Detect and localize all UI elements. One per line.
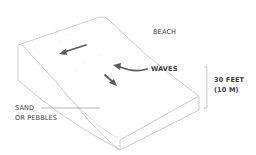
arrow-down-right-icon: [105, 75, 117, 86]
curved-wave-arrow-icon: [113, 63, 147, 71]
arrow-left-icon: [59, 45, 86, 55]
surface-texture: [60, 35, 119, 73]
label-or-pebbles: OR PEBBLES: [15, 114, 57, 123]
label-waves: WAVES: [151, 65, 178, 74]
beach-diagram: BEACH WAVES 30 FEET (10 M) SAND OR PEBBL…: [0, 0, 256, 155]
block-outline: [18, 17, 199, 150]
label-sand: SAND: [15, 104, 34, 113]
label-height-feet: 30 FEET: [214, 76, 244, 85]
height-bracket: [204, 67, 207, 108]
label-beach: BEACH: [153, 28, 176, 37]
label-height-meters: (10 M): [214, 86, 239, 95]
